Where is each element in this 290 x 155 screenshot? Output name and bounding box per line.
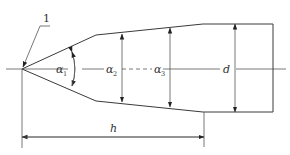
dimension-alpha3: α 3 [154, 28, 170, 107]
dimension-d: d [223, 24, 235, 112]
callout-label-1: 1 [43, 12, 50, 25]
label-h: h [110, 122, 117, 135]
label-alpha3-subscript: 3 [161, 70, 165, 78]
label-d: d [223, 63, 230, 76]
dimension-alpha2: α 2 [106, 34, 122, 102]
label-alpha2-subscript: 2 [113, 70, 117, 78]
label-alpha1-subscript: 1 [63, 70, 67, 78]
length-dimension-h: h [22, 122, 204, 137]
callout-1: 1 [23, 12, 50, 67]
tip-profile-diagram: h α 1 α 2 α 3 d 1 [0, 0, 290, 155]
